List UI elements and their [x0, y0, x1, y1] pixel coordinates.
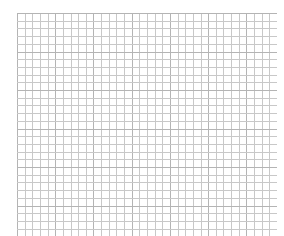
graph-paper-grid: [17, 13, 277, 236]
grid-lines: [17, 13, 277, 236]
